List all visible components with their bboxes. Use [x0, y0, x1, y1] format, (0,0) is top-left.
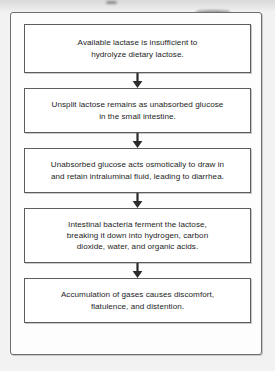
flowchart-node-2-label: Unsplit lactose remains as unabsorbed gl… — [52, 99, 224, 121]
flowchart-node-3-label: Unabsorbed glucose acts osmotically to d… — [51, 159, 224, 181]
flowchart-connector-4 — [24, 263, 251, 278]
flowchart-connector-3 — [24, 193, 251, 208]
flowchart-node-1-label: Available lactase is insufficient to hyd… — [78, 37, 198, 59]
arrow-down-icon — [131, 263, 144, 278]
flowchart-node-5[interactable]: Accumulation of gases causes discomfort,… — [24, 278, 251, 323]
flowchart-node-5-label: Accumulation of gases causes discomfort,… — [61, 289, 214, 311]
diagram-frame: Available lactase is insufficient to hyd… — [10, 12, 262, 355]
flowchart-node-1[interactable]: Available lactase is insufficient to hyd… — [24, 24, 251, 73]
flowchart-node-3[interactable]: Unabsorbed glucose acts osmotically to d… — [24, 148, 251, 193]
flowchart-connector-1 — [24, 73, 251, 88]
flowchart-node-4[interactable]: Intestinal bacteria ferment the lactose,… — [24, 208, 251, 263]
flowchart-node-4-label: Intestinal bacteria ferment the lactose,… — [67, 219, 208, 253]
arrow-down-icon — [131, 133, 144, 148]
flowchart: Available lactase is insufficient to hyd… — [24, 24, 251, 323]
flowchart-connector-2 — [24, 133, 251, 148]
flowchart-node-2[interactable]: Unsplit lactose remains as unabsorbed gl… — [24, 88, 251, 133]
arrow-down-icon — [131, 73, 144, 88]
arrow-down-icon — [131, 193, 144, 208]
scan-artifact-smudge — [106, 1, 117, 4]
